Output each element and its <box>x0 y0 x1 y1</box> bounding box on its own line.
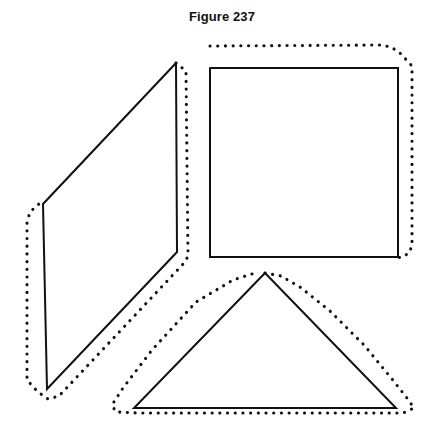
triangle-shape <box>112 273 414 413</box>
triangle-solid-outline <box>134 273 396 408</box>
parallelogram-solid-outline <box>43 63 177 389</box>
square-shape <box>210 45 412 258</box>
figure-root: Figure 237 <box>0 0 444 432</box>
parallelogram-dotted-outline <box>27 63 188 399</box>
triangle-dotted-outline <box>112 273 414 413</box>
square-dotted-outline <box>210 45 412 258</box>
square-solid-outline <box>210 68 398 257</box>
parallelogram-shape <box>27 63 188 399</box>
figure-canvas <box>0 0 444 432</box>
